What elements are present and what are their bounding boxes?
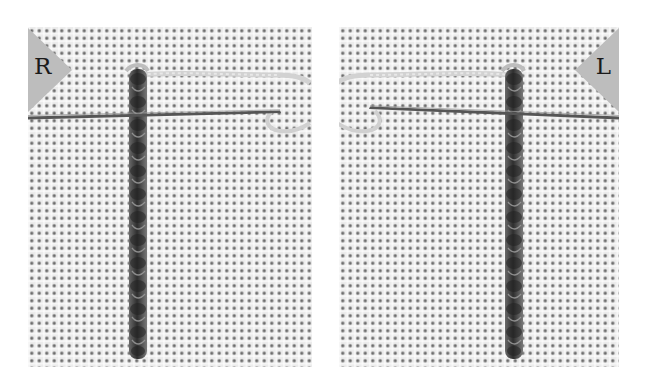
loose-thread <box>136 73 310 83</box>
left-handed-badge: L <box>573 28 619 112</box>
thread-loop <box>339 111 380 131</box>
badge-letter: R <box>34 55 51 78</box>
chain-stitch-column <box>502 65 524 359</box>
chain-stitch-column <box>126 65 148 359</box>
photo-panel-left-handed: L <box>339 27 619 367</box>
thread-loop <box>267 111 310 131</box>
right-handed-badge: R <box>28 28 74 112</box>
photo-panel-right-handed: R <box>28 27 312 367</box>
badge-letter: L <box>596 55 611 78</box>
